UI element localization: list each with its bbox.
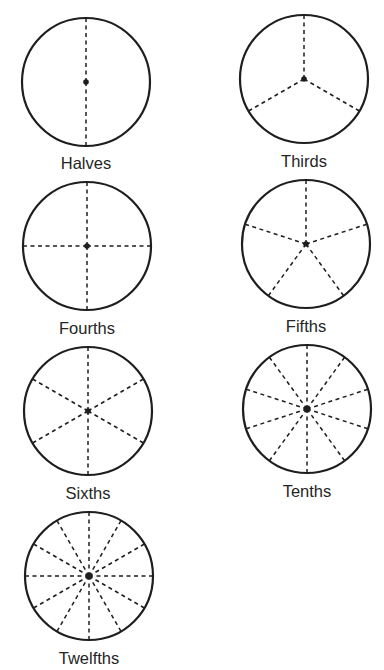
- divider-line: [33, 411, 88, 443]
- label-halves: Halves: [16, 153, 156, 173]
- center-dot: [301, 76, 307, 82]
- divider-line: [246, 389, 307, 409]
- divider-line: [304, 79, 359, 111]
- divider-line: [269, 357, 307, 409]
- divider-line: [89, 576, 121, 631]
- circle-tenths: [243, 345, 371, 473]
- label-fourths: Fourths: [17, 318, 157, 338]
- divider-line: [307, 409, 345, 461]
- divider-line: [306, 224, 367, 244]
- circle-halves: [22, 18, 150, 146]
- divider-line: [307, 357, 345, 409]
- divider-line: [34, 544, 89, 576]
- divider-line: [57, 521, 89, 576]
- label-tenths: Tenths: [237, 481, 377, 501]
- divider-line: [89, 544, 144, 576]
- center-dot: [304, 406, 310, 412]
- circle-fourths: [23, 182, 151, 310]
- divider-line: [307, 409, 368, 429]
- label-thirds: Thirds: [234, 151, 374, 171]
- label-twelfths: Twelfths: [19, 648, 159, 668]
- divider-line: [89, 521, 121, 576]
- center-dot: [83, 79, 89, 85]
- divider-line: [88, 379, 143, 411]
- divider-line: [268, 244, 306, 296]
- divider-line: [33, 379, 88, 411]
- circle-twelfths: [25, 512, 153, 640]
- circle-fifths: [242, 180, 370, 308]
- divider-line: [306, 244, 344, 296]
- divider-line: [245, 224, 306, 244]
- center-dot: [86, 573, 92, 579]
- divider-line: [89, 576, 144, 608]
- divider-line: [269, 409, 307, 461]
- circle-sixths: [24, 347, 152, 475]
- circle-thirds: [240, 15, 368, 143]
- divider-line: [57, 576, 89, 631]
- divider-line: [88, 411, 143, 443]
- divider-line: [34, 576, 89, 608]
- center-dot: [303, 241, 309, 247]
- divider-line: [307, 389, 368, 409]
- center-dot: [85, 408, 91, 414]
- divider-line: [249, 79, 304, 111]
- label-sixths: Sixths: [18, 483, 158, 503]
- label-fifths: Fifths: [236, 316, 376, 336]
- center-dot: [84, 243, 90, 249]
- divider-line: [246, 409, 307, 429]
